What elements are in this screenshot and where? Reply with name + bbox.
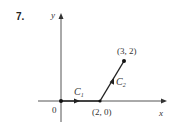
point-2-0-label: (2, 0) [92, 107, 112, 117]
c2-label: C2 [116, 76, 126, 88]
origin-point [59, 99, 63, 103]
c1-direction-arrow-icon [74, 99, 80, 104]
point-3-2-label: (3, 2) [117, 46, 137, 56]
c1-label: C1 [74, 86, 84, 98]
origin-label: 0 [52, 105, 57, 115]
point-3-2 [122, 59, 126, 63]
y-axis-label: y [51, 10, 55, 20]
path-diagram [0, 0, 174, 128]
x-axis-label: x [159, 108, 163, 118]
x-axis-arrow-icon [161, 99, 167, 104]
point-2-0 [98, 99, 101, 102]
y-axis-arrow-icon [59, 13, 64, 19]
